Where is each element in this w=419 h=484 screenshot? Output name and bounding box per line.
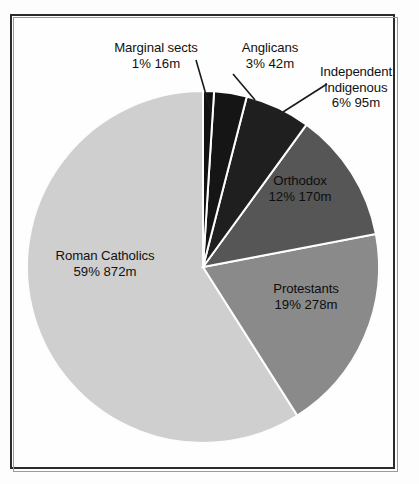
slice-label-anglicans-name: Anglicans (242, 40, 298, 55)
slice-label-independent-indigenous-name1: Independent (320, 64, 392, 79)
slice-label-protestants: Protestants 19% 278m (246, 281, 366, 312)
slice-label-orthodox: Orthodox 12% 170m (243, 173, 357, 204)
slice-label-marginal-sects-name: Marginal sects (114, 40, 198, 55)
slice-label-protestants-name: Protestants (273, 281, 339, 296)
slice-label-orthodox-name: Orthodox (273, 173, 326, 188)
slice-label-marginal-sects-value: 1% 16m (93, 56, 219, 72)
slice-label-orthodox-value: 12% 170m (243, 189, 357, 205)
slice-label-roman-catholics-name: Roman Catholics (56, 248, 155, 263)
pie-chart-figure: Marginal sects 1% 16m Anglicans 3% 42m I… (0, 0, 419, 484)
slice-label-protestants-value: 19% 278m (246, 297, 366, 313)
slice-label-independent-indigenous: Independent indigenous 6% 95m (300, 64, 412, 111)
slice-label-marginal-sects: Marginal sects 1% 16m (93, 40, 219, 71)
slice-label-independent-indigenous-value: 6% 95m (300, 95, 412, 111)
slice-label-roman-catholics-value: 59% 872m (33, 264, 177, 280)
slice-label-independent-indigenous-name2: indigenous (300, 80, 412, 96)
slice-label-roman-catholics: Roman Catholics 59% 872m (33, 248, 177, 279)
